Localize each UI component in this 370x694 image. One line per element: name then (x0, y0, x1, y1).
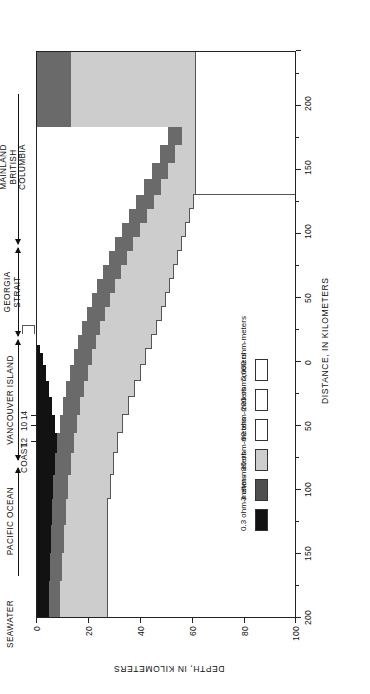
y-tick-label-0: 0 (32, 626, 42, 646)
x-tick-mark (296, 585, 299, 586)
y-tick-label-2: 40 (136, 626, 146, 646)
x-tick-label-3: 50 (303, 421, 313, 431)
y-tick-mark (140, 618, 141, 623)
x-tick-mark (296, 73, 299, 74)
x-tick-mark (296, 457, 299, 458)
legend-swatch-4 (255, 389, 268, 411)
figure-stage: SEAWATER PACIFIC OCEAN COAST VANCOUVER I… (0, 0, 370, 694)
x-tick-label-4: 0 (303, 360, 313, 365)
station-label-14: 14 (20, 411, 29, 420)
x-tick-mark (296, 105, 301, 106)
y-axis-title: DEPTH, IN KILOMETERS (109, 664, 229, 674)
y-tick-mark (88, 618, 89, 623)
x-tick-label-1: 150 (303, 546, 313, 561)
y-tick-mark (36, 618, 37, 623)
x-tick-label-2: 100 (303, 482, 313, 497)
vancouver-island-extent-arrow (18, 340, 19, 460)
x-tick-label-5: 50 (303, 293, 313, 303)
boundary-5000-ohm-m (195, 194, 295, 195)
x-tick-mark (296, 265, 299, 266)
region-label-georgia-strait: GEORGIA STRAIT (3, 250, 22, 334)
x-tick-mark (296, 169, 301, 170)
region-annotation-band: SEAWATER PACIFIC OCEAN COAST VANCOUVER I… (0, 0, 36, 694)
legend-swatch-3 (255, 419, 268, 441)
y-tick-label-1: 20 (84, 626, 94, 646)
x-tick-mark (296, 201, 299, 202)
station-label-12: 12 (20, 438, 29, 447)
cross-section-plot: 0.3 ohm-meters 3 ohm-meters 30 ohm-meter… (36, 51, 296, 618)
y-tick-label-4: 80 (240, 626, 250, 646)
mainland-extent-arrow (18, 94, 19, 244)
legend-label-5: 5,000 ohm-meters (239, 316, 248, 381)
x-tick-mark (296, 425, 301, 426)
x-tick-mark (296, 137, 299, 138)
x-tick-mark (296, 297, 301, 298)
x-tick-mark (296, 50, 301, 51)
x-tick-mark (296, 329, 299, 330)
region-label-mainland-british-columbia: MAINLAND BRITISH COLUMBIA (0, 92, 28, 242)
y-tick-label-3: 60 (188, 626, 198, 646)
x-tick-label-8: 200 (303, 96, 313, 111)
layer-3-ohm-m-mainland-block (37, 52, 71, 127)
region-label-pacific-ocean: PACIFIC OCEAN (6, 466, 16, 576)
x-tick-mark (296, 393, 299, 394)
station-label-10: 10 (20, 422, 29, 431)
x-tick-label-6: 100 (303, 224, 313, 239)
legend-swatch-5 (255, 359, 268, 381)
georgia-strait-extent-arrow (18, 248, 19, 336)
x-tick-label-0: 200 (303, 610, 313, 625)
x-tick-mark (296, 489, 301, 490)
x-tick-mark (296, 617, 301, 618)
x-tick-label-7: 150 (303, 160, 313, 175)
x-tick-mark (296, 521, 299, 522)
legend-swatch-1 (255, 479, 268, 501)
y-tick-mark (192, 618, 193, 623)
x-tick-mark (296, 361, 301, 362)
legend-swatch-0 (255, 509, 268, 531)
georgia-strait-bracket (22, 325, 35, 334)
pacific-ocean-extent-arrow (18, 468, 19, 576)
y-tick-label-5: 100 (291, 626, 301, 646)
region-label-vancouver-island: VANCOUVER ISLAND (6, 342, 16, 458)
x-axis-title: DISTANCE, IN KILOMETERS (320, 277, 330, 404)
region-label-seawater: SEAWATER (6, 582, 16, 666)
cross-section-figure: SEAWATER PACIFIC OCEAN COAST VANCOUVER I… (0, 0, 370, 694)
plot-clip: 0.3 ohm-meters 3 ohm-meters 30 ohm-meter… (37, 52, 295, 617)
legend-swatch-2 (255, 449, 268, 471)
legend: 0.3 ohm-meters 3 ohm-meters 30 ohm-meter… (209, 301, 289, 531)
y-tick-mark (244, 618, 245, 623)
x-tick-mark (296, 553, 301, 554)
y-tick-mark (295, 618, 296, 623)
x-tick-mark (296, 233, 301, 234)
